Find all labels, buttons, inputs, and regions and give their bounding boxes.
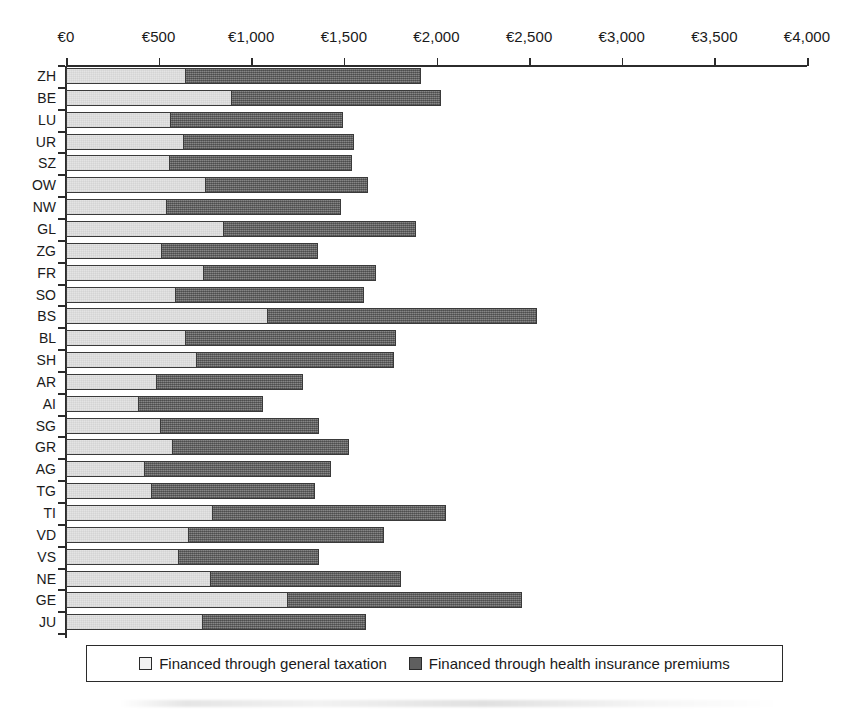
x-axis-tick-label: €3,000 [599,28,645,45]
bar-row-bl [0,330,859,346]
y-axis-tick [58,327,65,329]
bar-segment-bs-general-taxation [66,308,268,324]
bar-segment-bl-general-taxation [66,330,186,346]
bar-row-nw [0,199,859,215]
x-axis-tick [807,58,809,66]
bar-row-fr [0,265,859,281]
y-axis-tick [58,131,65,133]
bar-segment-ow-general-taxation [66,177,206,193]
x-axis-tick [344,58,346,66]
bar-row-ur [0,134,859,150]
bar-row-vd [0,527,859,543]
bar-segment-tg-health-insurance-premiums [151,483,315,499]
scan-artifact [120,700,780,707]
y-axis-tick [58,196,65,198]
bar-segment-ag-general-taxation [66,461,145,477]
y-axis-tick [58,262,65,264]
bar-segment-nw-general-taxation [66,199,167,215]
x-axis-tick-label: €2,000 [413,28,459,45]
bar-segment-gr-general-taxation [66,439,173,455]
y-axis-tick [58,284,65,286]
dark-swatch-icon [409,657,422,670]
bar-row-gl [0,221,859,237]
y-axis-tick [58,633,65,635]
bar-segment-vd-health-insurance-premiums [188,527,384,543]
bar-row-sg [0,418,859,434]
bar-segment-fr-health-insurance-premiums [203,265,376,281]
bar-segment-ti-general-taxation [66,505,213,521]
bar-segment-gr-health-insurance-premiums [172,439,349,455]
y-axis-tick [58,415,65,417]
y-axis-tick [58,305,65,307]
bar-row-sh [0,352,859,368]
y-axis-tick [58,502,65,504]
bar-segment-ar-general-taxation [66,374,157,390]
y-axis-tick [58,174,65,176]
bar-row-bs [0,308,859,324]
y-axis-tick [58,458,65,460]
bar-segment-ju-general-taxation [66,614,203,630]
bar-row-lu [0,112,859,128]
bar-segment-ne-health-insurance-premiums [210,571,402,587]
bar-row-sz [0,155,859,171]
light-swatch-icon [139,657,152,670]
x-axis-tick-label: €1,500 [321,28,367,45]
bar-row-ge [0,592,859,608]
x-axis-tick [529,58,531,66]
bar-segment-vs-health-insurance-premiums [178,549,319,565]
bar-segment-ai-health-insurance-premiums [138,396,263,412]
y-axis-tick [58,589,65,591]
bar-segment-be-health-insurance-premiums [231,90,441,106]
bar-row-ag [0,461,859,477]
bar-segment-bs-health-insurance-premiums [267,308,537,324]
x-axis-tick [66,58,68,66]
y-axis-tick [58,436,65,438]
bar-row-gr [0,439,859,455]
legend-entry-health-insurance-premiums: Financed through health insurance premiu… [409,655,730,672]
x-axis-tick-labels: €0€500€1,000€1,500€2,000€2,500€3,000€3,5… [0,28,859,50]
x-axis-tick [622,58,624,66]
bar-segment-ag-health-insurance-premiums [144,461,331,477]
bar-row-ai [0,396,859,412]
bar-segment-sh-general-taxation [66,352,197,368]
bar-segment-sz-general-taxation [66,155,170,171]
bar-segment-ju-health-insurance-premiums [202,614,366,630]
bar-segment-be-general-taxation [66,90,232,106]
bar-segment-so-health-insurance-premiums [175,287,364,303]
x-axis-tick [714,58,716,66]
bar-row-ti [0,505,859,521]
bar-segment-zh-general-taxation [66,68,186,84]
bar-segment-vs-general-taxation [66,549,179,565]
y-axis-tick [58,240,65,242]
bar-segment-ar-health-insurance-premiums [156,374,303,390]
bar-row-be [0,90,859,106]
bar-row-zh [0,68,859,84]
bar-segment-nw-health-insurance-premiums [166,199,341,215]
bar-segment-sh-health-insurance-premiums [196,352,394,368]
bar-row-vs [0,549,859,565]
y-axis-tick [58,218,65,220]
bar-segment-sg-health-insurance-premiums [160,418,318,434]
x-axis-tick [437,58,439,66]
bar-segment-zg-health-insurance-premiums [161,243,318,259]
bar-segment-sz-health-insurance-premiums [169,155,352,171]
y-axis-tick [58,546,65,548]
x-axis-tick-label: €0 [58,28,75,45]
bar-segment-fr-general-taxation [66,265,204,281]
y-axis-tick [58,65,65,67]
bar-row-ar [0,374,859,390]
bar-segment-ge-general-taxation [66,592,288,608]
bar-segment-ne-general-taxation [66,571,211,587]
bar-segment-ti-health-insurance-premiums [212,505,445,521]
bar-row-ju [0,614,859,630]
x-axis-tick-label: €2,500 [506,28,552,45]
bar-row-zg [0,243,859,259]
bar-segment-bl-health-insurance-premiums [185,330,396,346]
bar-row-ow [0,177,859,193]
x-axis-tick-label: €500 [142,28,176,45]
bar-segment-ge-health-insurance-premiums [287,592,521,608]
bar-segment-lu-general-taxation [66,112,171,128]
x-axis-tick-label: €1,000 [228,28,274,45]
bar-segment-ai-general-taxation [66,396,139,412]
bar-row-ne [0,571,859,587]
